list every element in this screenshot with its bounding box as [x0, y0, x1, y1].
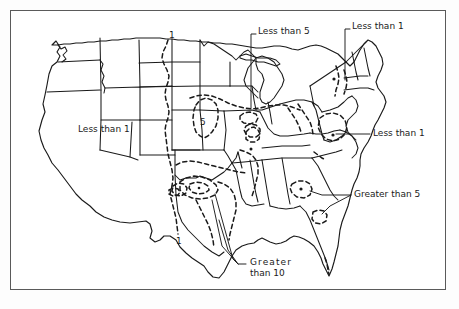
nd-sd-boundary — [139, 62, 200, 63]
dot-oklahoma — [198, 187, 201, 190]
sc-ga-coast — [312, 158, 338, 200]
leader-less-than-1-northeast — [345, 29, 350, 80]
or-ca-boundary — [47, 90, 100, 92]
callout-less-than-1-northeast: Less than 1 — [352, 21, 404, 32]
ohio-river-kentucky-north — [260, 112, 310, 136]
va-nc-line — [310, 130, 340, 134]
dot-missouri — [250, 148, 253, 151]
iowa-missouri-boundary — [224, 110, 260, 112]
isoline-label-1-south: 1 — [176, 236, 182, 246]
us-contour-map — [0, 0, 459, 309]
label-less-than-1-west: Less than 1 — [78, 124, 130, 135]
dot-midatlantic — [331, 133, 334, 136]
isoline-small-missouri — [240, 112, 258, 124]
utah-north-boundary — [105, 87, 140, 120]
isoline-pocket-illinois — [246, 127, 260, 142]
ks-missouri-line — [200, 110, 203, 150]
ma-ct-ri-line — [344, 88, 374, 90]
contour-isolines — [162, 40, 347, 274]
dot-alabama — [299, 187, 302, 190]
newmexico-south-boundary — [140, 150, 175, 155]
michigan-upper-peninsula — [240, 54, 280, 66]
ma-north-line — [344, 76, 368, 78]
wa-or-idaho-boundary — [100, 38, 101, 90]
figure-root: 1 Less than 5 Less than 1 Less than 1 Le… — [0, 0, 459, 309]
callout-greater-than-10-line1: Greater — [250, 257, 292, 268]
puget-sound-detail — [58, 45, 67, 62]
al-ga-line — [282, 158, 290, 204]
ne-ks-boundary — [172, 110, 224, 111]
iowa-north-boundary — [230, 86, 258, 92]
nh-me-line — [364, 48, 370, 76]
isoline-1-newengland — [335, 66, 339, 96]
isoline-1-midatlantic-loop — [318, 113, 347, 141]
isoline-east-texas — [218, 182, 236, 240]
isoline-appalachian-2 — [288, 108, 301, 132]
isoline-carolina — [314, 152, 326, 160]
ny-canada-border — [310, 62, 346, 86]
louisiana-outline — [232, 163, 264, 206]
florida-peninsula-east — [300, 206, 329, 270]
isoline-1-west — [162, 40, 178, 234]
tn-south-boundary — [262, 158, 312, 160]
ky-tn-boundary — [262, 145, 310, 148]
callout-less-than-1-midatlantic: Less than 1 — [373, 128, 425, 139]
ny-pa-nj-line — [322, 96, 352, 112]
isoline-5-south-florida — [312, 210, 327, 224]
isoline-5-northern — [190, 95, 300, 110]
callout-greater-than-10: Greater than 10 — [250, 257, 292, 280]
callout-greater-than-10-line2: than 10 — [250, 268, 292, 279]
ok-ar-line — [224, 150, 232, 163]
isoline-label-1-north: 1 — [169, 30, 175, 40]
gulf-coast-al-fl — [270, 206, 300, 209]
callout-less-than-5: Less than 5 — [258, 26, 310, 37]
dot-newengland — [332, 77, 335, 80]
ca-az-diagonal — [100, 150, 138, 160]
great-lakes-superior-shore — [200, 40, 258, 98]
missouri-line — [224, 111, 226, 150]
ms-al-line — [262, 160, 270, 206]
nv-az-boundary — [130, 122, 132, 157]
callout-greater-than-5: Greater than 5 — [354, 189, 420, 200]
isoline-label-5: 5 — [200, 117, 206, 127]
ar-ms-upper — [238, 152, 242, 168]
